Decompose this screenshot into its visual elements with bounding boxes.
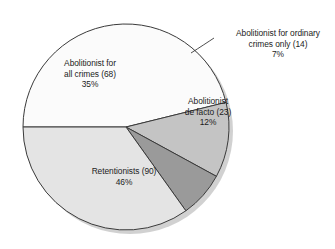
callout-leader-line <box>191 38 214 53</box>
pie-chart-canvas <box>0 0 335 249</box>
pie-chart: Abolitionist for all crimes (68) 35% Abo… <box>0 0 335 249</box>
